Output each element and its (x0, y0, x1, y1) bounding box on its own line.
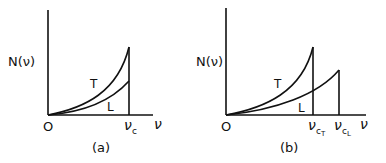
panel-a-caption: (a) (92, 140, 110, 155)
panel-b-curve-L-label: L (298, 101, 305, 115)
panel-a-curve-T-label: T (89, 77, 98, 91)
panel-a-curve-T (48, 47, 129, 115)
panel-a-curve-L-label: L (107, 100, 114, 114)
svg-text:L: L (347, 130, 351, 138)
panel-a-x-label: ν (154, 116, 162, 132)
panel-b-cutoff-T-label: ν c T (308, 117, 326, 138)
svg-text:ν: ν (334, 117, 342, 133)
panel-b (226, 8, 366, 115)
svg-text:ν: ν (124, 117, 132, 133)
panel-b-caption: (b) (280, 140, 298, 155)
panel-b-cutoff-L-label: ν c L (334, 117, 351, 138)
svg-text:T: T (320, 130, 326, 138)
panel-a (48, 10, 153, 115)
panel-a-y-label: N(ν) (8, 54, 35, 69)
panel-b-y-label: N(ν) (196, 54, 223, 69)
svg-text:c: c (132, 126, 137, 136)
svg-text:ν: ν (308, 117, 316, 133)
panel-b-x-label: ν (360, 116, 368, 132)
panel-a-origin-label: O (43, 119, 53, 134)
panel-a-cutoff-label: ν c (124, 117, 137, 136)
diagram-canvas: N(ν) O ν T L ν c (a) N(ν) O ν T L ν c T … (0, 0, 386, 163)
panel-a-curve-L (48, 81, 129, 115)
panel-b-origin-label: O (221, 119, 231, 134)
panel-b-curve-T-label: T (273, 77, 282, 91)
